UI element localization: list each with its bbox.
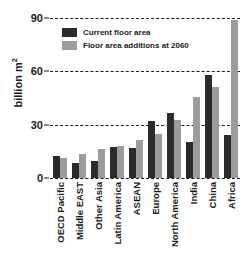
x-axis-label: Middle EAST bbox=[73, 182, 84, 240]
bar bbox=[212, 87, 219, 178]
bar bbox=[224, 135, 231, 178]
y-axis-title: billion m2 bbox=[10, 43, 24, 123]
legend-swatch bbox=[62, 28, 77, 37]
ytick-label-30: 30 bbox=[31, 119, 43, 131]
x-axis-label: OECD Pacific bbox=[54, 182, 65, 243]
bar bbox=[129, 148, 136, 178]
legend-swatch bbox=[62, 41, 77, 50]
legend-label: Floor area additions at 2060 bbox=[83, 41, 189, 50]
bar bbox=[193, 97, 200, 178]
ytick-label-60: 60 bbox=[31, 65, 43, 77]
x-axis-label: North America bbox=[168, 182, 179, 247]
x-axis-label-cell: North America bbox=[164, 178, 183, 262]
bar bbox=[167, 113, 174, 178]
x-axis-label: Latin America bbox=[111, 182, 122, 244]
x-axis-label: India bbox=[187, 182, 198, 204]
legend-item: Current floor area bbox=[62, 28, 189, 37]
ytick-dash-60 bbox=[44, 71, 49, 72]
bar bbox=[91, 161, 98, 178]
x-axis-label: ASEAN bbox=[130, 182, 141, 215]
bar bbox=[110, 147, 117, 178]
bar bbox=[205, 75, 212, 178]
y-axis-title-exponent: 2 bbox=[10, 58, 19, 62]
bar bbox=[174, 120, 181, 178]
y-axis-title-text: billion m bbox=[12, 62, 24, 107]
ytick-dash-0 bbox=[44, 178, 49, 179]
bar bbox=[231, 20, 238, 178]
x-axis-label-cell: Europe bbox=[145, 178, 164, 262]
bar bbox=[186, 142, 193, 178]
bar bbox=[117, 146, 124, 178]
legend-label: Current floor area bbox=[83, 28, 151, 37]
bar bbox=[98, 149, 105, 178]
x-axis-label-cell: Africa bbox=[221, 178, 240, 262]
x-axis-label: China bbox=[206, 182, 217, 208]
bar-chart: billion m2 90 60 30 0 OECD PacificMiddle… bbox=[0, 0, 249, 262]
x-axis-label-cell: India bbox=[183, 178, 202, 262]
x-axis-label: Other Asia bbox=[92, 182, 103, 230]
ytick-dash-90 bbox=[44, 18, 49, 19]
x-axis-label-cell: China bbox=[202, 178, 221, 262]
ytick-label-90: 90 bbox=[31, 12, 43, 24]
bar bbox=[136, 140, 143, 178]
ytick-dash-30 bbox=[44, 124, 49, 125]
x-axis-label-cell: Latin America bbox=[107, 178, 126, 262]
x-axis-label: Europe bbox=[149, 182, 160, 215]
x-axis-labels: OECD PacificMiddle EASTOther AsiaLatin A… bbox=[50, 178, 240, 262]
bar bbox=[53, 156, 60, 178]
x-axis-label-cell: OECD Pacific bbox=[50, 178, 69, 262]
x-axis-label-cell: ASEAN bbox=[126, 178, 145, 262]
ytick-label-0: 0 bbox=[37, 172, 43, 184]
bar bbox=[60, 158, 67, 178]
bar-group bbox=[202, 18, 221, 178]
x-axis-label-cell: Middle EAST bbox=[69, 178, 88, 262]
bar bbox=[72, 163, 79, 178]
x-axis-label-cell: Other Asia bbox=[88, 178, 107, 262]
chart-legend: Current floor areaFloor area additions a… bbox=[62, 28, 189, 54]
legend-item: Floor area additions at 2060 bbox=[62, 41, 189, 50]
bar bbox=[155, 134, 162, 178]
bar bbox=[79, 154, 86, 178]
bar-group bbox=[221, 18, 240, 178]
x-axis-label: Africa bbox=[225, 182, 236, 209]
bar bbox=[148, 121, 155, 178]
